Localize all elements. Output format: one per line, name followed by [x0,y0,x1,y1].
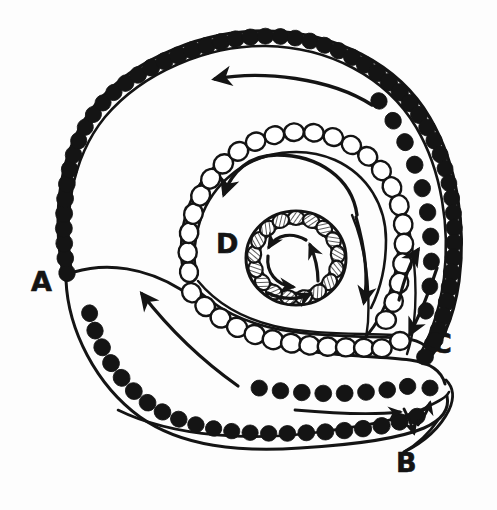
cell [297,424,315,441]
cell [168,409,189,430]
cell [80,303,100,324]
cell [353,419,372,438]
label-c: C [432,330,452,357]
cell [357,383,375,401]
cell [316,423,334,441]
cell [315,385,332,402]
cell [398,377,418,396]
cell [404,154,426,176]
arrow-outer-top [215,75,372,105]
cell [378,381,396,399]
cell [293,384,311,401]
cell [390,332,410,350]
cell [179,261,200,284]
cell [372,339,392,358]
arrow-inner-up [310,245,318,281]
cell [417,349,434,365]
cell [335,422,354,440]
cell [422,380,438,396]
cell [242,425,259,441]
cell [288,211,305,225]
cell [394,233,413,254]
arrow-inner-spiral-2 [268,256,293,287]
arrow-b-right [295,410,400,414]
cell [279,425,296,442]
cell [272,382,290,400]
cell [84,320,105,342]
diagram-canvas: A B C D [0,0,497,510]
cell [303,123,325,143]
cell [382,109,405,132]
arrow-inner-spiral-1 [269,235,306,247]
arrow-middle-top [224,155,357,215]
cell [422,228,439,246]
cell [412,178,432,199]
cell [250,379,268,397]
label-a: A [31,268,52,295]
cell [376,311,396,329]
cell [260,426,276,442]
cell [393,213,414,235]
cell [418,202,437,222]
cell [257,28,274,44]
lower-duct-filled-cells-row2 [250,377,438,402]
label-b: B [396,449,417,476]
cell [394,131,416,154]
cell [178,242,196,262]
label-d: D [216,230,238,257]
cell [284,123,304,141]
cell [336,385,353,402]
spiral-diagram-svg [0,0,497,510]
